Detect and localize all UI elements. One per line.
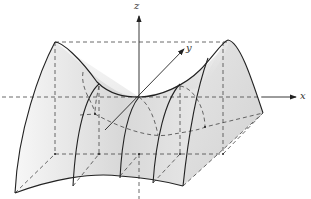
z-axis-label: z: [134, 1, 139, 11]
y-axis-label: y: [186, 43, 192, 53]
saddle-surface-diagram: [0, 0, 311, 199]
x-axis-label: x: [300, 91, 306, 101]
